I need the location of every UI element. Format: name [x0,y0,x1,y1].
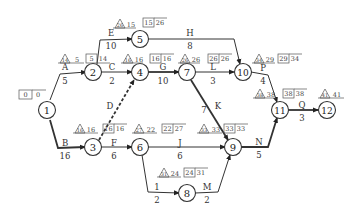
svg-text:14: 14 [99,55,107,63]
node-12: 12 [319,102,336,119]
svg-text:8: 8 [184,188,190,199]
svg-text:33: 33 [225,125,233,133]
event-box-node-1: 0 0 [19,90,46,99]
event-triangle-node-5: 26 15 [113,19,136,29]
event-box-node-9: 33 33 [224,124,248,133]
label-K: K [215,101,222,111]
duration-B: 16 [60,151,71,161]
svg-text:26: 26 [192,56,200,64]
duration-F: 6 [111,151,116,161]
svg-text:6: 6 [137,142,143,153]
svg-text:16: 16 [104,125,112,133]
event-triangle-node-4: 16 16 [121,54,143,64]
svg-text:10: 10 [237,68,249,78]
duration-H: 8 [187,41,192,51]
event-box-node-3: 16 16 [103,124,127,133]
node-6: 6 [132,139,149,156]
node-5: 5 [132,31,149,48]
svg-text:26: 26 [117,22,123,28]
duration-I: 2 [154,195,159,205]
svg-text:16: 16 [151,55,159,63]
svg-text:16: 16 [87,126,95,134]
label-F: F [111,138,117,148]
node-10: 10 [235,64,252,81]
label-B: B [62,138,68,148]
node-2: 2 [85,64,102,81]
event-box-node-10: 29 34 [278,54,302,63]
duration-L: 3 [210,76,215,86]
svg-text:33: 33 [237,125,245,133]
label-G: G [160,62,167,72]
svg-text:5: 5 [89,55,93,63]
label-P: P [260,63,266,73]
event-box-node-4: 16 16 [150,54,174,63]
svg-text:31: 31 [161,171,167,177]
node-4: 4 [132,64,149,81]
svg-text:15: 15 [144,19,152,27]
svg-text:16: 16 [163,55,171,63]
svg-text:14: 14 [62,57,68,63]
label-D: D [107,101,114,111]
label-H: H [186,28,193,38]
svg-text:29: 29 [266,56,274,64]
svg-text:16: 16 [125,57,131,63]
svg-text:9: 9 [230,142,236,153]
event-box-node-5: 15 26 [143,18,167,27]
svg-text:26: 26 [209,55,217,63]
svg-text:0: 0 [36,91,40,99]
label-I: 1 [154,182,159,192]
label-N: N [255,137,263,147]
svg-text:12: 12 [321,106,332,116]
svg-text:33: 33 [201,127,207,133]
event-triangle-node-2: 14 5 [58,54,84,64]
event-box-node-6: 22 27 [162,124,186,133]
node-8: 8 [179,185,196,202]
label-E: E [108,28,114,38]
event-box-node-2: 5 14 [86,54,110,63]
svg-text:41: 41 [322,92,328,98]
duration-C: 2 [109,76,114,86]
node-7: 7 [179,64,196,81]
event-box-node-11: 38 38 [283,89,307,98]
label-J: J [177,138,182,148]
event-triangle-node-9: 33 33 [197,124,222,134]
svg-text:7: 7 [184,67,190,78]
duration-K: 7 [201,105,206,115]
svg-text:27: 27 [175,125,183,133]
node-3: 3 [85,139,102,156]
svg-text:33: 33 [212,126,220,134]
svg-text:27: 27 [136,127,142,133]
event-box-node-7: 26 26 [208,54,232,63]
svg-text:2: 2 [90,67,96,78]
duration-G: 10 [158,76,169,86]
event-box-node-8: 24 31 [184,168,208,177]
activity-labels: A 5 B 16 C 2 D E 10 F 6 G 10 H 8 1 2 J 6… [60,28,306,205]
svg-text:16: 16 [77,127,83,133]
arrow-K [191,80,228,140]
svg-text:38: 38 [284,90,292,98]
svg-text:34: 34 [291,55,299,63]
svg-text:26: 26 [221,55,229,63]
node-9: 9 [225,139,242,156]
svg-text:38: 38 [267,91,275,99]
label-M: M [203,182,212,192]
node-1: 1 [39,102,56,119]
svg-text:3: 3 [90,142,96,153]
svg-text:22: 22 [147,126,155,134]
event-triangle-node-3: 16 16 [73,124,98,134]
svg-text:4: 4 [137,67,143,78]
svg-text:24: 24 [171,170,179,178]
svg-text:34: 34 [256,57,262,63]
duration-A: 5 [62,76,67,86]
svg-text:26: 26 [156,19,164,27]
svg-text:41: 41 [333,91,341,99]
svg-text:5: 5 [75,56,79,64]
event-triangle-node-7: 26 26 [178,54,200,64]
label-L: L [210,62,216,72]
duration-E: 10 [106,41,117,51]
event-triangle-node-11: 38 38 [253,89,276,99]
label-A: A [61,62,69,72]
svg-text:29: 29 [279,55,287,63]
arrow-A [50,72,86,100]
duration-N: 5 [256,150,261,160]
